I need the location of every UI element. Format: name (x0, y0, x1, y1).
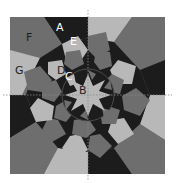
label-d: D (57, 64, 65, 77)
label-f: F (26, 31, 32, 44)
label-c: C (65, 70, 73, 83)
label-a: A (56, 21, 64, 34)
label-g: G (15, 64, 24, 77)
label-e: E (70, 35, 77, 48)
quilt-block-diagram: A B C D E F G (0, 0, 178, 183)
label-b: B (79, 84, 87, 97)
quilt-block (10, 17, 165, 174)
